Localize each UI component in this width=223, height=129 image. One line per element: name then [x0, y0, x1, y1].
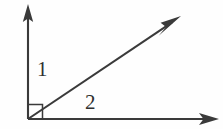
angle-diagram: 1 2	[0, 0, 223, 129]
diagonal-ray-line	[28, 22, 172, 119]
diagonal-ray-arrowhead-icon	[159, 16, 181, 36]
angle-label-1: 1	[37, 59, 48, 80]
diagram-svg	[0, 0, 223, 129]
angle-label-2: 2	[85, 92, 96, 113]
